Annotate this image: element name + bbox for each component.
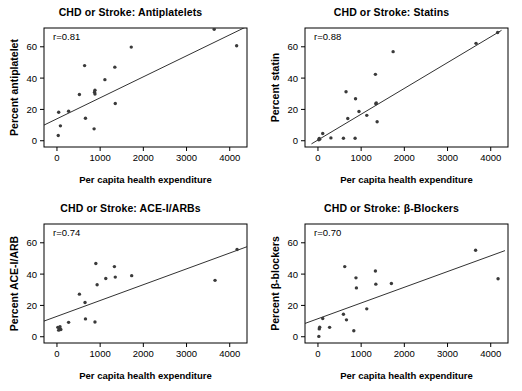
x-axis-tick-label: 0 <box>315 152 320 163</box>
data-point <box>235 248 238 251</box>
x-axis-tick-label: 2000 <box>133 152 154 163</box>
data-point <box>496 31 499 34</box>
data-point <box>83 64 86 67</box>
scatter-plot-statins: 010002000300040000204060r=0.88Per capita… <box>261 0 522 195</box>
x-axis-tick-label: 2000 <box>133 348 154 359</box>
data-point <box>212 28 215 31</box>
y-axis-label: Percent antiplatelet <box>8 39 20 136</box>
data-point <box>104 277 107 280</box>
data-point <box>113 65 116 68</box>
x-axis-label: Per capita health expenditure <box>340 370 473 381</box>
y-axis-tick-label: 20 <box>26 300 37 311</box>
data-point <box>92 127 95 130</box>
data-point <box>374 269 377 272</box>
x-axis-label: Per capita health expenditure <box>340 174 473 185</box>
data-point <box>57 134 60 137</box>
data-point <box>342 312 345 315</box>
x-axis-tick-label: 4000 <box>219 348 240 359</box>
y-axis-tick-label: 0 <box>293 135 298 146</box>
data-point <box>78 292 81 295</box>
data-point <box>318 325 321 328</box>
data-point <box>390 282 393 285</box>
correlation-annotation: r=0.88 <box>314 31 341 42</box>
data-point <box>67 321 70 324</box>
data-point <box>375 120 378 123</box>
data-point <box>365 307 368 310</box>
regression-line <box>305 251 505 324</box>
data-point <box>353 137 356 140</box>
x-axis-tick-label: 4000 <box>219 152 240 163</box>
y-axis-tick-label: 60 <box>287 237 298 248</box>
x-axis-tick-label: 3000 <box>176 348 197 359</box>
x-axis-label: Per capita health expenditure <box>79 174 212 185</box>
y-axis-tick-label: 20 <box>26 104 37 115</box>
data-point <box>84 317 87 320</box>
figure-panel-grid: CHD or Stroke: Antiplatelets 01000200030… <box>0 0 522 391</box>
data-point <box>93 89 96 92</box>
data-point <box>93 320 96 323</box>
data-point <box>354 97 357 100</box>
data-point <box>357 110 360 113</box>
x-axis-tick-label: 2000 <box>394 348 415 359</box>
data-point <box>93 92 96 95</box>
data-point <box>346 117 349 120</box>
y-axis-tick-label: 40 <box>287 73 298 84</box>
scatter-plot-antiplatelets: 010002000300040000204060r=0.81Per capita… <box>0 0 261 195</box>
scatter-plot-beta-blockers: 010002000300040000204060r=0.70Per capita… <box>261 196 522 391</box>
x-axis-tick-label: 3000 <box>437 348 458 359</box>
data-point <box>113 265 116 268</box>
data-point <box>94 262 97 265</box>
data-point <box>114 102 117 105</box>
data-point <box>352 329 355 332</box>
plot-frame <box>44 28 247 147</box>
data-point <box>365 114 368 117</box>
y-axis-tick-label: 60 <box>287 41 298 52</box>
y-axis-tick-label: 20 <box>287 104 298 115</box>
y-axis-label: Percent β-blockers <box>269 236 281 331</box>
data-point <box>95 283 98 286</box>
x-axis-tick-label: 1000 <box>351 152 372 163</box>
data-point <box>474 42 477 45</box>
regression-line <box>44 247 247 321</box>
data-point <box>344 90 347 93</box>
data-point <box>235 44 238 47</box>
y-axis-label: Percent statin <box>269 53 281 122</box>
data-point <box>321 132 324 135</box>
data-point <box>130 45 133 48</box>
data-point <box>57 111 60 114</box>
plot-frame <box>305 224 508 343</box>
y-axis-tick-label: 60 <box>26 41 37 52</box>
scatter-plot-ace-i-arbs: 010002000300040000204060r=0.74Per capita… <box>0 196 261 391</box>
data-point <box>59 328 62 331</box>
data-point <box>213 279 216 282</box>
data-point <box>342 137 345 140</box>
data-point <box>329 136 332 139</box>
y-axis-tick-label: 40 <box>26 269 37 280</box>
y-axis-tick-label: 0 <box>32 331 37 342</box>
x-axis-tick-label: 1000 <box>90 348 111 359</box>
data-point <box>391 50 394 53</box>
data-point <box>84 116 87 119</box>
x-axis-tick-label: 0 <box>54 152 59 163</box>
data-point <box>78 93 81 96</box>
x-axis-tick-label: 2000 <box>394 152 415 163</box>
y-axis-tick-label: 40 <box>287 269 298 280</box>
panel-beta-blockers: CHD or Stroke: β-Blockers 01000200030004… <box>261 196 522 391</box>
panel-statins: CHD or Stroke: Statins 01000200030004000… <box>261 0 522 195</box>
data-point <box>345 318 348 321</box>
data-point <box>114 275 117 278</box>
x-axis-tick-label: 0 <box>54 348 59 359</box>
data-point <box>83 301 86 304</box>
data-point <box>317 335 320 338</box>
data-point <box>375 101 378 104</box>
regression-line <box>311 30 501 144</box>
data-point <box>103 78 106 81</box>
data-point <box>354 276 357 279</box>
y-axis-tick-label: 20 <box>287 300 298 311</box>
y-axis-tick-label: 0 <box>32 135 37 146</box>
x-axis-label: Per capita health expenditure <box>79 370 212 381</box>
data-point <box>328 326 331 329</box>
data-point <box>496 277 499 280</box>
y-axis-tick-label: 0 <box>293 331 298 342</box>
data-point <box>374 282 377 285</box>
